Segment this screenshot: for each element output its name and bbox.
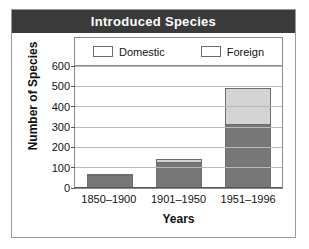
legend-item-domestic: Domestic <box>93 46 165 58</box>
chart-figure: Introduced Species Number of Species Dom… <box>11 9 296 238</box>
x-axis-title: Years <box>74 212 283 226</box>
bar-segment-domestic <box>156 162 202 188</box>
y-axis-tick-label: 300 <box>52 121 70 133</box>
y-axis-tick-mark <box>71 127 75 128</box>
chart-title: Introduced Species <box>91 14 216 29</box>
legend-item-foreign: Foreign <box>201 46 264 58</box>
gridline <box>75 86 282 87</box>
x-axis-line <box>75 187 282 188</box>
y-axis-tick-mark <box>71 188 75 189</box>
x-axis-tick-label: 1901–1950 <box>147 193 209 205</box>
chart-body: Number of Species Domestic Foreign 01002… <box>12 33 295 237</box>
gridline <box>75 127 282 128</box>
y-axis-tick-label: 100 <box>52 162 70 174</box>
y-axis-title: Number of Species <box>26 41 40 151</box>
legend-label-foreign: Foreign <box>227 46 264 58</box>
plot-frame: Domestic Foreign 0100200300400500600 <box>74 37 283 189</box>
legend-swatch-foreign <box>201 46 221 57</box>
y-axis-tick-label: 0 <box>64 182 70 194</box>
y-axis-tick-label: 400 <box>52 101 70 113</box>
y-axis-tick-label: 600 <box>52 60 70 72</box>
bar-segment-domestic <box>225 124 271 188</box>
x-axis-tick-labels: 1850–19001901–19501951–1996 <box>74 193 283 205</box>
chart-title-banner: Introduced Species <box>12 10 295 33</box>
legend-label-domestic: Domestic <box>119 46 165 58</box>
gridline <box>75 147 282 148</box>
y-axis-tick-mark <box>71 147 75 148</box>
gridline <box>75 106 282 107</box>
y-axis-tick-label: 200 <box>52 141 70 153</box>
gridline <box>75 167 282 168</box>
y-axis-tick-mark <box>71 167 75 168</box>
plot-area: 0100200300400500600 <box>75 66 282 188</box>
y-axis-tick-mark <box>71 86 75 87</box>
y-axis-tick-mark <box>71 66 75 67</box>
y-axis-tick-label: 500 <box>52 80 70 92</box>
chart-legend: Domestic Foreign <box>75 38 282 66</box>
x-axis-tick-label: 1951–1996 <box>217 193 279 205</box>
y-axis-tick-mark <box>71 106 75 107</box>
gridline <box>75 66 282 67</box>
legend-swatch-domestic <box>93 46 113 57</box>
x-axis-tick-label: 1850–1900 <box>78 193 140 205</box>
